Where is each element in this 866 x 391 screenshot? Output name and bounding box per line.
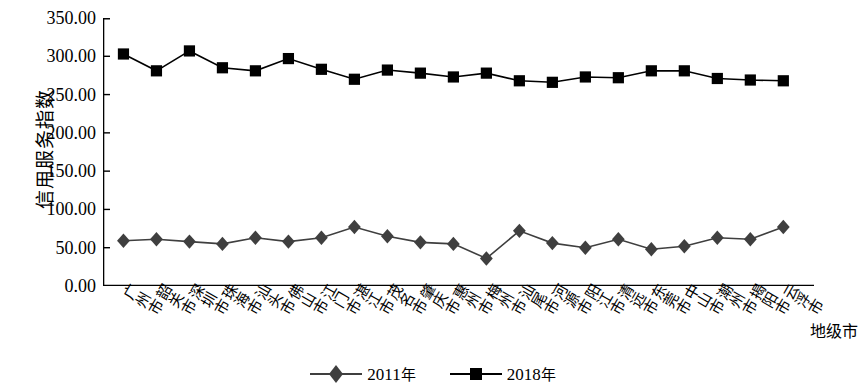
data-point-marker (348, 220, 361, 234)
data-point-marker (414, 235, 427, 249)
data-point-marker (514, 75, 525, 86)
data-point-marker (612, 232, 625, 246)
data-point-marker (151, 65, 162, 76)
x-axis-tick-labels: 广州市韶关市深圳市珠海市汕头市佛山市江门市湛江市茂名市肇庆市惠州市梅州市汕尾市河… (103, 290, 863, 360)
plot-area (103, 18, 814, 286)
data-point-marker (679, 65, 690, 76)
data-point-marker (283, 53, 294, 64)
series-2018年 (118, 45, 789, 88)
legend-item: 2018年 (450, 363, 556, 385)
data-point-marker (678, 239, 691, 253)
data-point-marker (777, 220, 790, 234)
data-point-marker (315, 231, 328, 245)
data-point-marker (249, 231, 262, 245)
data-point-marker (282, 234, 295, 248)
y-tick-label: 50.00 (18, 239, 96, 257)
legend-item: 2011年 (310, 363, 415, 385)
data-point-marker (480, 251, 493, 265)
data-point-marker (184, 45, 195, 56)
data-point-marker (117, 234, 130, 248)
y-axis-tick-labels: 0.0050.00100.00150.00200.00250.00300.003… (16, 0, 96, 391)
data-point-marker (415, 68, 426, 79)
y-tick-label: 200.00 (18, 124, 96, 142)
data-point-marker (217, 62, 228, 73)
data-point-marker (711, 231, 724, 245)
legend-label: 2011年 (367, 363, 415, 385)
data-point-marker (547, 77, 558, 88)
data-point-marker (118, 48, 129, 59)
data-point-marker (316, 64, 327, 75)
data-point-marker (481, 68, 492, 79)
data-point-marker (712, 73, 723, 84)
y-tick-label: 350.00 (18, 9, 96, 27)
data-point-marker (579, 241, 592, 255)
data-point-marker (216, 237, 229, 251)
data-point-marker (448, 71, 459, 82)
chart-figure: 信用服务指数 0.0050.00100.00150.00200.00250.00… (0, 0, 866, 391)
series-2011年 (117, 220, 790, 266)
data-point-marker (778, 75, 789, 86)
data-point-marker (744, 232, 757, 246)
y-tick-label: 0.00 (18, 277, 96, 295)
data-point-marker (250, 65, 261, 76)
data-point-marker (382, 64, 393, 75)
data-point-marker (745, 74, 756, 85)
data-point-marker (646, 65, 657, 76)
diamond-marker (310, 365, 362, 383)
data-point-marker (580, 71, 591, 82)
y-tick-label: 250.00 (18, 86, 96, 104)
y-tick-label: 150.00 (18, 162, 96, 180)
x-axis-title: 地级市 (810, 318, 858, 342)
data-point-marker (546, 236, 559, 250)
data-point-marker (513, 224, 526, 238)
data-point-marker (645, 242, 658, 256)
data-point-marker (150, 232, 163, 246)
chart-svg (103, 18, 814, 286)
square-marker (450, 365, 502, 383)
data-point-marker (447, 237, 460, 251)
legend-label: 2018年 (507, 363, 556, 385)
chart-legend: 2011年2018年 (0, 363, 866, 385)
data-point-marker (349, 74, 360, 85)
y-tick-label: 300.00 (18, 47, 96, 65)
data-point-marker (381, 229, 394, 243)
y-tick-label: 100.00 (18, 200, 96, 218)
data-point-marker (613, 72, 624, 83)
data-point-marker (183, 234, 196, 248)
